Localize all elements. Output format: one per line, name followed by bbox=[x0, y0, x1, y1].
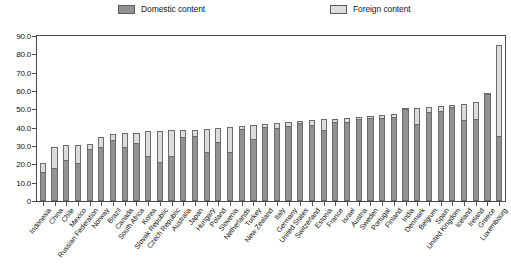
bars-layer bbox=[37, 36, 505, 201]
bar-column[interactable] bbox=[262, 124, 268, 201]
y-axis: 90.080.070.060.050.040.030.020.010.00 bbox=[0, 35, 36, 202]
bar-segment-domestic bbox=[414, 124, 420, 201]
bar-segment-domestic bbox=[297, 123, 303, 201]
y-tick-label: 60.0 bbox=[16, 87, 31, 96]
bar-column[interactable] bbox=[63, 145, 69, 201]
bar-segment-foreign bbox=[414, 108, 420, 125]
legend-swatch-domestic-icon bbox=[118, 5, 135, 14]
bar-column[interactable] bbox=[204, 129, 210, 201]
bar-column[interactable] bbox=[285, 122, 291, 201]
bar-column[interactable] bbox=[274, 123, 280, 201]
y-tick-label: 70.0 bbox=[16, 68, 31, 77]
bar-segment-domestic bbox=[145, 156, 151, 201]
legend-entry-domestic: Domestic content bbox=[118, 4, 205, 14]
bar-column[interactable] bbox=[438, 106, 444, 201]
bar-segment-foreign bbox=[133, 133, 139, 143]
bar-segment-foreign bbox=[168, 130, 174, 156]
bar-column[interactable] bbox=[87, 144, 93, 201]
bar-column[interactable] bbox=[145, 131, 151, 201]
bar-column[interactable] bbox=[297, 121, 303, 201]
bar-column[interactable] bbox=[461, 104, 467, 201]
legend-label-foreign: Foreign content bbox=[353, 4, 411, 14]
bar-segment-domestic bbox=[98, 147, 104, 201]
y-tick-label: 90.0 bbox=[16, 32, 31, 41]
bar-segment-domestic bbox=[391, 117, 397, 201]
bar-segment-domestic bbox=[87, 149, 93, 201]
bar-column[interactable] bbox=[110, 134, 116, 201]
bar-column[interactable] bbox=[40, 163, 46, 201]
bar-column[interactable] bbox=[449, 105, 455, 201]
bar-segment-domestic bbox=[461, 120, 467, 201]
bar-segment-foreign bbox=[98, 137, 104, 147]
bar-segment-foreign bbox=[496, 45, 502, 136]
bar-segment-domestic bbox=[496, 136, 502, 201]
bar-column[interactable] bbox=[98, 137, 104, 201]
bar-column[interactable] bbox=[496, 45, 502, 201]
y-tick-label: 20.0 bbox=[16, 160, 31, 169]
bar-segment-foreign bbox=[215, 128, 221, 143]
bar-segment-domestic bbox=[110, 140, 116, 201]
y-tick-label: 10.0 bbox=[16, 178, 31, 187]
bar-segment-domestic bbox=[51, 168, 57, 201]
stacked-bar-chart: Domestic content Foreign content 90.080.… bbox=[0, 0, 511, 275]
y-tick-label: 80.0 bbox=[16, 50, 31, 59]
bar-segment-domestic bbox=[402, 109, 408, 201]
bar-column[interactable] bbox=[168, 130, 174, 201]
y-tick-label: 30.0 bbox=[16, 142, 31, 151]
y-tick-label: 40.0 bbox=[16, 123, 31, 132]
y-tick-label: 0 bbox=[27, 197, 31, 206]
bar-column[interactable] bbox=[414, 108, 420, 202]
bar-segment-domestic bbox=[344, 122, 350, 201]
bar-segment-domestic bbox=[250, 139, 256, 201]
bar-segment-foreign bbox=[227, 127, 233, 152]
bar-segment-domestic bbox=[227, 152, 233, 202]
bar-segment-domestic bbox=[274, 128, 280, 201]
bar-column[interactable] bbox=[344, 118, 350, 201]
bar-column[interactable] bbox=[473, 102, 479, 201]
bar-column[interactable] bbox=[309, 120, 315, 201]
bar-column[interactable] bbox=[356, 117, 362, 201]
bar-column[interactable] bbox=[379, 115, 385, 201]
bar-column[interactable] bbox=[402, 108, 408, 201]
bar-segment-foreign bbox=[75, 145, 81, 162]
bar-column[interactable] bbox=[133, 133, 139, 201]
bar-segment-domestic bbox=[63, 160, 69, 201]
bar-column[interactable] bbox=[122, 133, 128, 201]
bar-column[interactable] bbox=[180, 130, 186, 201]
bar-segment-foreign bbox=[63, 145, 69, 160]
bar-segment-domestic bbox=[484, 94, 490, 201]
bar-segment-foreign bbox=[204, 129, 210, 152]
bar-segment-domestic bbox=[285, 126, 291, 201]
bar-segment-domestic bbox=[262, 127, 268, 201]
bar-segment-domestic bbox=[168, 156, 174, 201]
bar-column[interactable] bbox=[426, 107, 432, 201]
bar-segment-domestic bbox=[192, 136, 198, 201]
bar-column[interactable] bbox=[215, 128, 221, 201]
bar-column[interactable] bbox=[321, 119, 327, 201]
bar-column[interactable] bbox=[391, 114, 397, 201]
bar-segment-domestic bbox=[75, 163, 81, 202]
bar-segment-foreign bbox=[145, 131, 151, 156]
x-axis-labels: IndonesiaChinaChileMexicoRussian Federat… bbox=[0, 206, 511, 275]
bar-segment-domestic bbox=[40, 172, 46, 201]
bar-column[interactable] bbox=[332, 119, 338, 201]
bar-segment-domestic bbox=[367, 118, 373, 201]
bar-column[interactable] bbox=[227, 127, 233, 201]
bar-column[interactable] bbox=[51, 147, 57, 201]
bar-column[interactable] bbox=[367, 116, 373, 201]
legend-swatch-foreign-icon bbox=[330, 5, 347, 14]
bar-segment-domestic bbox=[379, 118, 385, 201]
bar-segment-domestic bbox=[321, 130, 327, 202]
bar-column[interactable] bbox=[250, 125, 256, 201]
bar-column[interactable] bbox=[192, 130, 198, 201]
bar-column[interactable] bbox=[484, 93, 490, 201]
bar-segment-domestic bbox=[122, 147, 128, 201]
chart-legend: Domestic content Foreign content bbox=[0, 2, 511, 22]
bar-column[interactable] bbox=[239, 126, 245, 201]
bar-column[interactable] bbox=[157, 131, 163, 201]
bar-segment-domestic bbox=[332, 122, 338, 201]
bar-segment-foreign bbox=[157, 131, 163, 161]
bar-segment-domestic bbox=[204, 152, 210, 202]
bar-column[interactable] bbox=[75, 145, 81, 201]
bar-segment-domestic bbox=[215, 142, 221, 201]
